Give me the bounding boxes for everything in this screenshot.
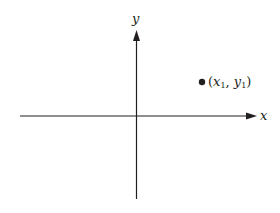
axes-graphic [0, 0, 280, 213]
x-axis-arrow-icon [246, 113, 257, 120]
point-label: (x1, y1) [208, 75, 251, 90]
point-marker [199, 79, 205, 85]
point-label-sep: , [226, 74, 234, 89]
point-label-close: ) [246, 74, 251, 89]
y-axis-arrow-icon [133, 30, 140, 41]
x-axis-label: x [260, 109, 267, 122]
y-axis-label: y [132, 12, 139, 25]
coordinate-diagram: x y (x1, y1) [0, 0, 280, 213]
